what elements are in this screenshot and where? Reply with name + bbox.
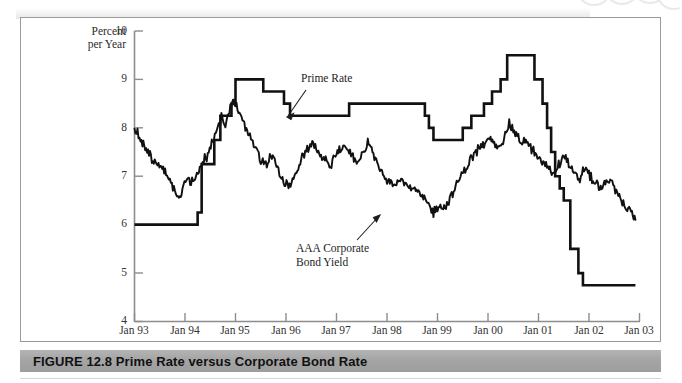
y-tick-label-7: 7	[109, 169, 127, 181]
y-tick-label-9: 9	[109, 72, 127, 84]
x-tick-label-jan-98: Jan 98	[364, 324, 410, 336]
page-bottom-rule	[20, 378, 661, 379]
y-tick-label-10: 10	[109, 24, 127, 36]
figure-caption-text: FIGURE 12.8 Prime Rate versus Corporate …	[33, 352, 367, 371]
x-tick-label-jan-02: Jan 02	[566, 324, 612, 336]
page-root: Percent per Year 10 9 8 7 6 5 4 Jan 93 J…	[0, 0, 682, 383]
x-tick-label-jan-03: Jan 03	[616, 324, 662, 336]
series-line-prime-rate	[135, 55, 636, 285]
axis-lines	[135, 31, 641, 322]
plot-area: Percent per Year 10 9 8 7 6 5 4 Jan 93 J…	[21, 18, 662, 343]
x-tick-label-jan-93: Jan 93	[111, 324, 157, 336]
x-tick-label-jan-01: Jan 01	[515, 324, 561, 336]
x-tick-label-jan-96: Jan 96	[263, 324, 309, 336]
x-tick-label-jan-99: Jan 99	[414, 324, 460, 336]
y-tick-label-6: 6	[109, 217, 127, 229]
figure-caption-bar: FIGURE 12.8 Prime Rate versus Corporate …	[20, 350, 661, 372]
x-tick-label-jan-94: Jan 94	[162, 324, 208, 336]
figure-frame: Percent per Year 10 9 8 7 6 5 4 Jan 93 J…	[20, 17, 661, 342]
x-tick-label-jan-00: Jan 00	[465, 324, 511, 336]
y-tick-label-8: 8	[109, 121, 127, 133]
series-line-aaa-corporate-bond-yield	[135, 100, 636, 220]
x-tick-label-jan-95: Jan 95	[212, 324, 258, 336]
annotation-prime-rate: Prime Rate	[301, 72, 352, 86]
x-axis-ticks	[135, 313, 640, 322]
annotation-aaa-corporate-bond-yield: AAA Corporate Bond Yield	[296, 242, 369, 269]
y-tick-label-5: 5	[109, 266, 127, 278]
y-axis-ticks	[135, 31, 144, 322]
x-tick-label-jan-97: Jan 97	[313, 324, 359, 336]
